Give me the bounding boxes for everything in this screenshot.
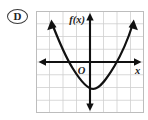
answer-choice-letter: D (14, 11, 22, 22)
graph-figure: f(x) O x (36, 11, 144, 113)
answer-choice-figure: D (0, 0, 148, 120)
coordinate-plane-svg: f(x) O x (36, 11, 144, 113)
origin-label: O (78, 65, 86, 76)
function-label: f(x) (69, 14, 85, 26)
x-axis-label: x (134, 65, 140, 76)
answer-choice-label-d[interactable]: D (7, 9, 28, 24)
